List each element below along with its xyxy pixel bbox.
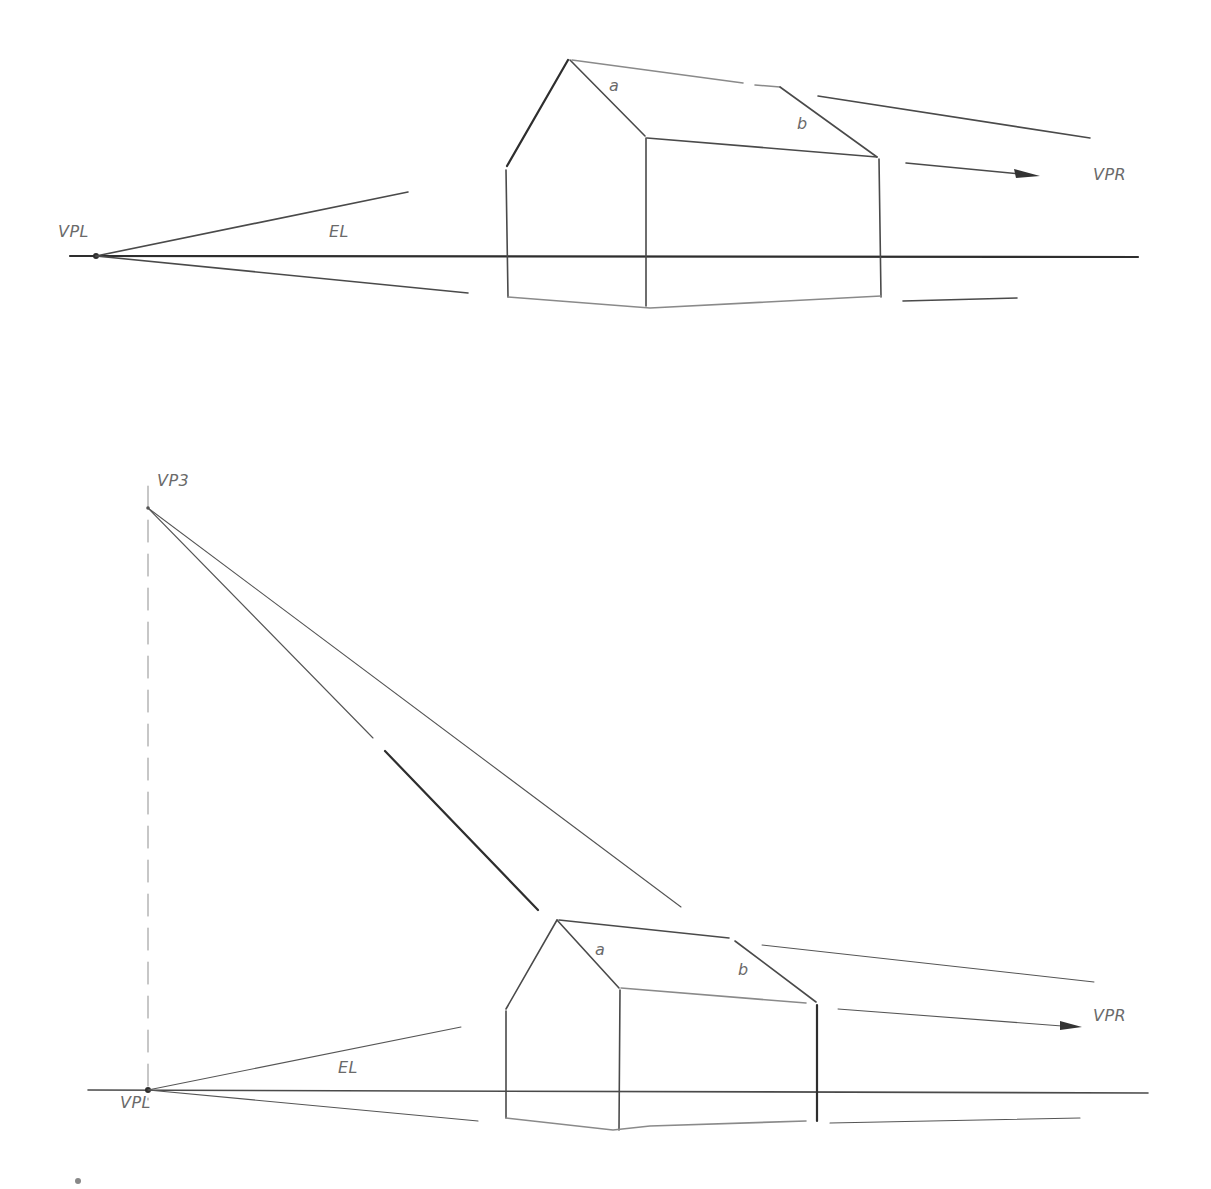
three-point-perspective-diagram [75,486,1148,1184]
roof-ridge [559,920,729,938]
vpr-arrow-head-icon [1014,169,1040,178]
label-el-bottom: EL [338,1060,358,1076]
vpl-upper-guide-bottom [148,1027,461,1090]
vpr-upper-guide [818,96,1090,138]
wall-right-edge [879,159,881,297]
label-el-top: EL [329,224,349,240]
label-vpl-top: VPL [58,224,89,240]
vp3-guide-right [148,508,681,907]
label-edge-a-top: a [609,78,619,94]
label-vp3: VP3 [157,473,189,489]
label-edge-a-bottom: a [595,942,605,958]
vp3-guide-left [148,508,373,738]
vpr-arrow-head-icon-bottom [1060,1021,1082,1030]
label-vpl-bottom: VPL [120,1095,151,1111]
wall-left-edge [506,170,508,297]
eye-level-line-bottom [88,1090,1148,1093]
vp3-guide-left-dark [385,751,538,910]
vpl-lower-guide [96,256,468,293]
vpr-upper-guide-bottom [762,945,1094,982]
perspective-drawing-canvas [0,0,1211,1189]
roof-eave [621,988,806,1003]
vpr-lower-guide-bottom [830,1118,1080,1123]
roof-ridge [572,60,743,83]
eye-level-line [70,256,1138,257]
house-base [506,1118,806,1130]
house-bottom [506,920,817,1130]
label-vpr-bottom: VPR [1093,1008,1126,1024]
gable-right-slope-a [570,60,645,136]
label-edge-b-top: b [797,116,808,132]
vpr-arrow-line-bottom [838,1009,1062,1026]
gable-left-slope [506,920,557,1009]
gable-left-slope [507,60,568,166]
house-base [508,296,881,308]
roof-ridge-end [755,85,780,87]
stray-dot [75,1178,81,1184]
two-point-perspective-diagram [70,60,1138,308]
vpl-upper-guide [96,192,408,256]
label-vpr-top: VPR [1093,167,1126,183]
roof-eave [647,138,877,157]
vpr-arrow-line [906,163,1020,174]
wall-corner-edge [619,990,620,1130]
gable-right-slope-a [557,920,619,988]
vpr-lower-guide [903,298,1017,301]
vpl-lower-guide-bottom [148,1090,478,1121]
label-edge-b-bottom: b [738,962,749,978]
